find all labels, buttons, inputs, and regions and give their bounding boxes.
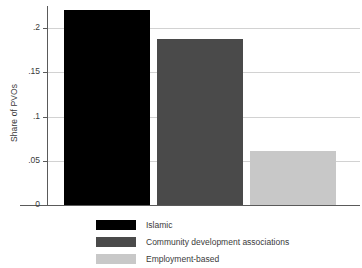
legend-label: Employment-based xyxy=(146,254,219,264)
bar xyxy=(64,10,150,205)
tick-mark xyxy=(43,205,48,206)
legend-item: Employment-based xyxy=(0,250,362,267)
legend-swatch xyxy=(96,220,136,230)
legend-swatch xyxy=(96,237,136,247)
legend-label: Community development associations xyxy=(146,237,289,247)
legend-item: Community development associations xyxy=(0,233,362,250)
legend-label: Islamic xyxy=(146,220,172,230)
legend-swatch xyxy=(96,254,136,264)
legend-item: Islamic xyxy=(0,216,362,233)
x-axis-line xyxy=(20,205,360,206)
bar xyxy=(157,39,243,205)
bar xyxy=(250,151,336,205)
bar-series xyxy=(0,6,362,205)
chart-legend: IslamicCommunity development association… xyxy=(0,216,362,267)
bar-chart: Share of PVOs 0.05.1.15.2 IslamicCommuni… xyxy=(0,0,362,268)
